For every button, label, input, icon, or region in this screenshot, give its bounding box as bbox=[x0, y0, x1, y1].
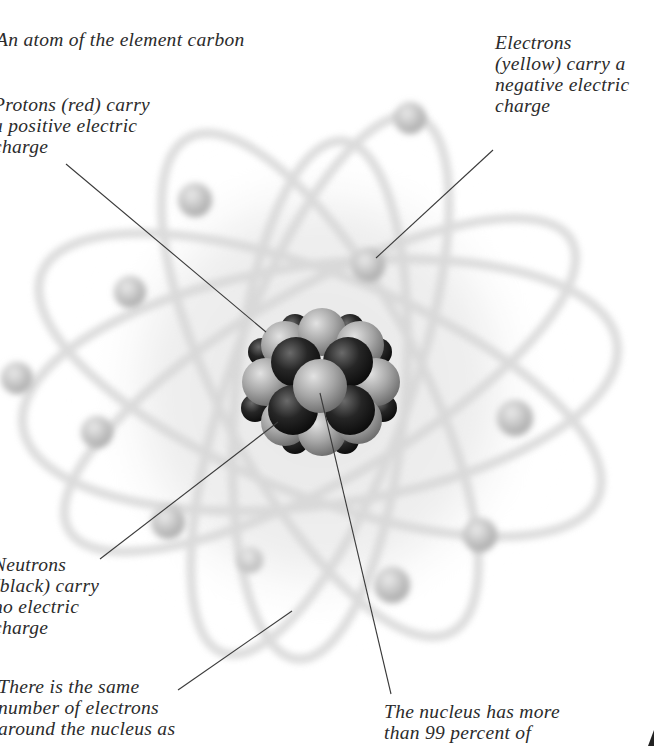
label-electrons: Electrons (yellow) carry a negative elec… bbox=[495, 32, 630, 116]
electron bbox=[237, 547, 263, 573]
atom-diagram: An atom of the element carbon Electrons … bbox=[0, 0, 654, 746]
page-corner-mark bbox=[648, 730, 654, 746]
electron bbox=[114, 276, 146, 308]
proton-center bbox=[293, 359, 347, 413]
diagram-title: An atom of the element carbon bbox=[0, 29, 245, 50]
electron bbox=[394, 102, 426, 134]
label-neutrons: Neutrons (black) carry no electric charg… bbox=[0, 554, 99, 638]
electron bbox=[497, 400, 533, 436]
label-protons: Protons (red) carry a positive electric … bbox=[0, 94, 150, 157]
electron bbox=[374, 567, 410, 603]
electron bbox=[151, 505, 185, 539]
electron bbox=[463, 518, 497, 552]
electron bbox=[178, 183, 212, 217]
electron bbox=[81, 416, 113, 448]
label-nucleus: The nucleus has more than 99 percent of bbox=[384, 701, 560, 743]
label-same-number: There is the same number of electrons ar… bbox=[0, 676, 175, 739]
electron bbox=[351, 248, 385, 282]
electron bbox=[1, 362, 33, 394]
